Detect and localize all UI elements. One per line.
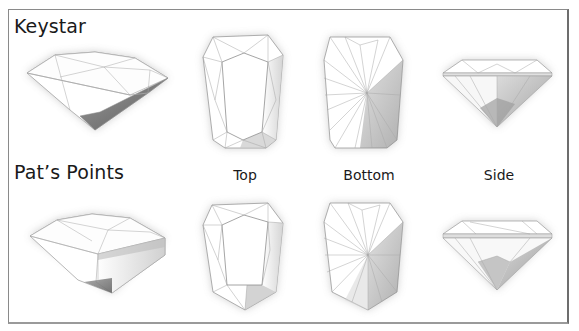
pats-points-top-gem bbox=[203, 203, 283, 310]
pats-points-bottom-gem bbox=[324, 203, 403, 310]
pats-points-perspective-gem bbox=[30, 214, 165, 293]
keystar-bottom-gem bbox=[324, 37, 403, 148]
keystar-side-gem bbox=[443, 60, 552, 127]
gem-diagrams bbox=[0, 0, 579, 331]
keystar-top-gem bbox=[203, 35, 283, 148]
keystar-perspective-gem bbox=[27, 52, 168, 130]
pats-points-side-gem bbox=[443, 221, 552, 290]
